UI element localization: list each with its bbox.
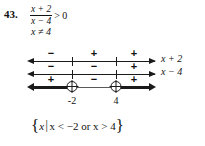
fraction-denominator: x − 4 <box>30 17 52 27</box>
open-circle-4 <box>111 81 122 92</box>
open-brace: { <box>31 117 39 134</box>
number-line-solution: + − + -2 4 <box>0 78 205 98</box>
sign-left: − <box>48 48 54 59</box>
sign-middle: − <box>91 61 97 72</box>
domain-restriction: x ≠ 4 <box>31 26 51 37</box>
fraction-numerator: x + 2 <box>30 5 52 15</box>
sign-middle: + <box>91 48 97 59</box>
expression-label-denominator: x − 4 <box>161 66 182 77</box>
sign-chart-diagram: − + + x + 2 − − + x − 4 + − + -2 4 <box>0 48 205 112</box>
sign-right: + <box>131 61 137 72</box>
right-arrowhead-icon <box>149 58 156 64</box>
tick-label-minus-2: -2 <box>68 95 76 106</box>
solution-set: { x | x < −2 or x > 4 } <box>31 117 124 134</box>
tick-label-4: 4 <box>114 95 119 106</box>
set-divider: | <box>46 118 48 133</box>
set-variable: x <box>39 120 44 132</box>
close-brace: } <box>116 117 124 134</box>
inequality-expression: x + 2 x − 4 > 0 <box>30 5 67 26</box>
right-arrowhead-icon <box>149 71 156 77</box>
expression-label-numerator: x + 2 <box>161 53 182 64</box>
sign-middle: − <box>91 74 97 85</box>
fraction: x + 2 x − 4 <box>30 5 52 26</box>
problem-number: 43. <box>4 8 18 20</box>
sign-right: + <box>131 74 137 85</box>
sign-left: + <box>48 74 54 85</box>
open-circle-minus-2 <box>67 81 78 92</box>
sign-left: − <box>48 61 54 72</box>
sign-right: + <box>131 48 137 59</box>
set-condition: x < −2 or x > 4 <box>49 120 115 132</box>
inequality-relation: > 0 <box>54 10 67 21</box>
